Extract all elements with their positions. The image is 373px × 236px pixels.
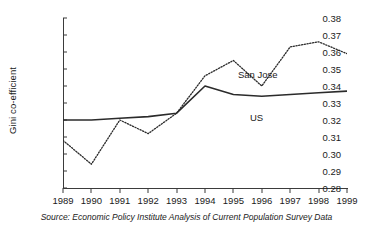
- x-axis-tick-mark: [91, 188, 92, 193]
- y-axis-title-text: Gini co-efficient: [7, 67, 18, 134]
- series-lines: [63, 18, 347, 188]
- x-axis-tick-label: 1992: [138, 195, 159, 206]
- x-axis-tick-label: 1994: [194, 195, 215, 206]
- x-axis-tick-mark: [347, 188, 348, 193]
- x-axis-tick-label: 1999: [336, 195, 357, 206]
- series-line-us: [63, 86, 347, 120]
- series-label-us: US: [250, 112, 263, 123]
- series-label-san-jose: San Jose: [238, 69, 278, 80]
- x-axis-tick-mark: [148, 188, 149, 193]
- x-axis-tick-label: 1997: [280, 195, 301, 206]
- x-axis-tick-mark: [261, 188, 262, 193]
- x-axis-tick-mark: [119, 188, 120, 193]
- series-line-san-jose: [63, 42, 347, 164]
- x-axis-tick-label: 1998: [308, 195, 329, 206]
- x-axis-tick-label: 1995: [223, 195, 244, 206]
- x-axis-tick-mark: [290, 188, 291, 193]
- y-axis-title: Gini co-efficient: [4, 30, 20, 170]
- x-axis-tick-label: 1996: [251, 195, 272, 206]
- x-axis-tick-mark: [233, 188, 234, 193]
- x-axis-tick-label: 1991: [109, 195, 130, 206]
- source-note: Source: Economic Policy Institute Analys…: [0, 212, 373, 222]
- plot-area: 0.380.370.360.350.340.330.320.310.300.29…: [63, 18, 347, 188]
- x-axis-tick-mark: [176, 188, 177, 193]
- x-axis-tick-label: 1993: [166, 195, 187, 206]
- gini-coefficient-chart: Gini co-efficient 0.380.370.360.350.340.…: [0, 0, 373, 236]
- x-axis-tick-mark: [205, 188, 206, 193]
- x-axis-tick-mark: [63, 188, 64, 193]
- x-axis-tick-label: 1990: [81, 195, 102, 206]
- x-axis-tick-label: 1989: [52, 195, 73, 206]
- x-axis-line: [63, 188, 348, 189]
- x-axis-tick-mark: [318, 188, 319, 193]
